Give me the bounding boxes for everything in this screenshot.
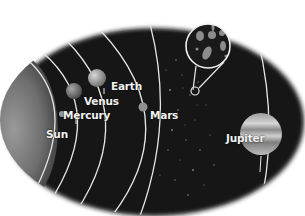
- label-mars: Mars: [150, 109, 178, 121]
- label-sun: Sun: [46, 128, 68, 140]
- label-jupiter: Jupiter: [226, 132, 264, 144]
- label-earth: Earth: [111, 80, 142, 92]
- mars-planet: [139, 103, 148, 112]
- venus-planet: [66, 83, 82, 99]
- diagram-canvas: [0, 0, 305, 216]
- label-venus: Venus: [84, 95, 119, 107]
- earth-planet: [88, 69, 106, 87]
- solar-system-diagram: Sun Mercury Venus Earth Mars Jupiter: [0, 0, 305, 216]
- label-mercury: Mercury: [63, 109, 110, 121]
